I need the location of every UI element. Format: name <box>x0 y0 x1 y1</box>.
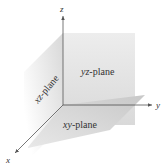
x-axis-label: x <box>5 155 10 165</box>
y-axis-label: y <box>155 100 160 110</box>
yz-plane-label: yz-plane <box>80 66 115 77</box>
xy-plane-label: xy-plane <box>62 119 97 130</box>
coordinate-planes-diagram: z y x yz-plane xz-plane xy-plane <box>0 0 165 167</box>
z-axis-label: z <box>59 4 64 14</box>
